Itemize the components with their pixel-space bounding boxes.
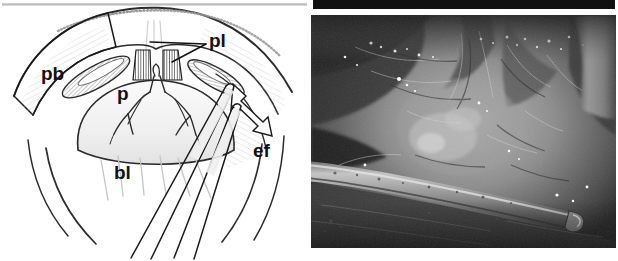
- figure-container: pb pl p bl ef: [0, 0, 618, 261]
- schematic-svg: [0, 0, 309, 261]
- label-pb: pb: [41, 64, 64, 83]
- pl-leader-line-2: [150, 42, 206, 44]
- lower-left-sweep: [46, 148, 96, 244]
- label-p: p: [117, 84, 129, 103]
- photograph: [311, 15, 616, 248]
- photograph-svg: [311, 15, 616, 248]
- label-bl: bl: [114, 163, 131, 182]
- lower-left-hatch: [46, 148, 96, 244]
- label-pl: pl: [209, 31, 226, 50]
- striated-band-right: [163, 50, 182, 80]
- left-panel-schematic: pb pl p bl ef: [0, 0, 309, 261]
- midline-seam: [146, 20, 162, 49]
- drawing-ink: [14, 8, 292, 259]
- right-panel-photograph: la P: [309, 0, 618, 261]
- schematic-drawing: [0, 0, 309, 261]
- striated-band-left: [133, 50, 151, 80]
- photo-grain: [311, 15, 616, 248]
- label-ef: ef: [253, 141, 270, 160]
- right-panel-top-bar: [313, 0, 615, 9]
